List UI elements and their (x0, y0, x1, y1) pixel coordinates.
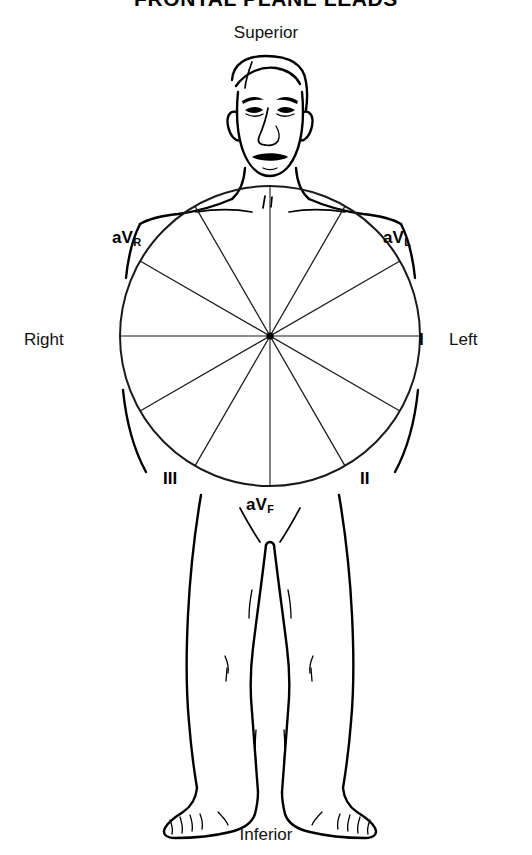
leg-right-inner (274, 545, 289, 792)
face-outline (237, 92, 303, 176)
eye-right-lower-lid (277, 114, 294, 116)
orientation-label-superior: Superior (0, 24, 532, 41)
neck-tendon-right (271, 197, 272, 207)
nose-base (265, 141, 278, 145)
neck-tendon-left (263, 196, 265, 208)
neck-left (232, 168, 245, 199)
lead-avl-sub: L (404, 236, 411, 248)
ankle-left-crease (218, 812, 228, 825)
frontal-plane-illustration (0, 0, 532, 855)
lead-i-base: I (419, 330, 424, 349)
lead-axis-wheel (120, 186, 420, 486)
lead-avr-sub: R (133, 236, 141, 248)
eye-left-lower-lid (246, 114, 263, 116)
chin-crease (263, 168, 277, 170)
legs-group (187, 495, 354, 792)
ankle-right-crease (312, 812, 322, 825)
groin-crease-right (280, 508, 300, 542)
orientation-label-right: Right (24, 331, 64, 348)
leg-left-inner (251, 545, 266, 792)
orientation-label-left: Left (449, 331, 477, 348)
neck-right (296, 168, 309, 199)
lead-label-avf: aVF (246, 496, 274, 513)
brow-right (276, 97, 298, 104)
knee-left-tick (226, 668, 227, 681)
lead-avr-base: aV (112, 228, 133, 247)
eye-left (245, 107, 263, 113)
page-title: FRONTAL PLANE LEADS (0, 0, 532, 11)
lead-label-avl: aVL (383, 229, 411, 246)
mouth (252, 153, 288, 161)
leg-right-outer (339, 495, 353, 788)
orientation-label-inferior: Inferior (0, 826, 532, 843)
lead-label-ii: II (360, 470, 369, 487)
eye-right (277, 107, 295, 113)
thigh-apex (266, 542, 274, 545)
leg-left-outer (187, 495, 201, 788)
calf-right-line (288, 590, 291, 618)
clavicle-left (196, 210, 252, 212)
nose-right-wing (276, 126, 279, 141)
lead-label-avr: aVR (112, 229, 141, 246)
lead-avl-base: aV (383, 228, 404, 247)
lead-label-i: I (419, 331, 424, 348)
shin-left-line (255, 730, 256, 762)
clavicle-right (289, 210, 345, 212)
lead-avf-base: aV (246, 495, 267, 514)
hip-right (395, 390, 418, 472)
wheel-hub (266, 332, 273, 339)
lead-label-iii: III (163, 470, 177, 487)
shin-right-line (284, 730, 285, 762)
lead-avf-sub: F (267, 503, 274, 515)
lead-ii-base: II (360, 469, 369, 488)
figure-canvas: FRONTAL PLANE LEADS Superior Inferior Ri… (0, 0, 532, 855)
lead-iii-base: III (163, 469, 177, 488)
brow-left (242, 97, 264, 104)
knee-right-tick (311, 668, 312, 681)
calf-left-line (249, 590, 252, 618)
